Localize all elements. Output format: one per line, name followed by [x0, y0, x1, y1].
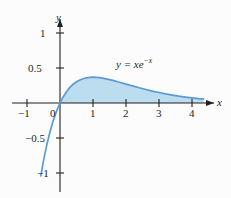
curve-equation-label: y = xe−x: [116, 59, 152, 70]
x-tick-label-4: 4: [189, 108, 195, 119]
y-tick-label--0.5: −0.5: [25, 133, 45, 144]
x-tick-label-0: 0: [50, 108, 56, 119]
y-axis-label: y: [56, 12, 61, 23]
x-axis-label: x: [217, 97, 222, 108]
x-tick-label-1: 1: [90, 108, 96, 119]
y-tick-label-1: 1: [40, 28, 46, 39]
x-tick-label--1: −1: [18, 108, 30, 119]
figure-container: −1 0 1 2 3 4 1 0.5 −0.5 −1 y x y = xe−x: [0, 0, 231, 198]
y-tick-label--1: −1: [37, 168, 49, 179]
shaded-area-under-curve: [60, 77, 204, 103]
curve-equation-base: y = xe: [116, 58, 144, 70]
x-tick-label-2: 2: [123, 108, 129, 119]
x-tick-label-3: 3: [156, 108, 162, 119]
curve-equation-exponent: −x: [144, 56, 152, 65]
plot-canvas: [0, 0, 231, 198]
y-tick-label-0.5: 0.5: [28, 63, 42, 74]
x-axis-arrowhead: [206, 100, 214, 106]
